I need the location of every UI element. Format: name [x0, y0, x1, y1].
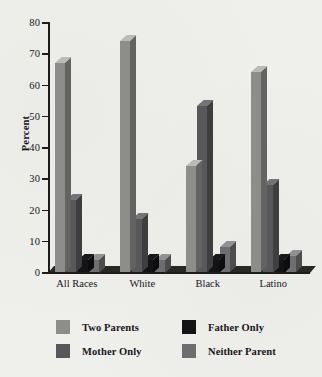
y-tick-mark [42, 116, 48, 118]
bar-front-face [55, 63, 65, 272]
bar-side-face [130, 35, 136, 272]
chart-legend: Two ParentsFather OnlyMother OnlyNeither… [56, 315, 306, 363]
bar-side-face [76, 195, 82, 272]
y-tick-label: 80 [29, 17, 40, 28]
y-tick-label: 30 [29, 173, 40, 184]
bar-front-face [186, 166, 196, 272]
y-tick-mark [42, 210, 48, 212]
y-tick-mark [42, 22, 48, 24]
category-label: Latino [233, 278, 314, 289]
legend-swatch [56, 320, 70, 334]
bar-side-face [196, 160, 202, 272]
y-tick-label: 0 [35, 267, 40, 278]
y-tick-mark [42, 178, 48, 180]
y-tick-mark [42, 147, 48, 149]
bar-group [186, 22, 231, 272]
plot-area: 01020304050607080 All RacesWhiteBlackLat… [48, 22, 310, 272]
bar [251, 72, 261, 272]
y-tick-label: 70 [29, 48, 40, 59]
legend-label: Neither Parent [208, 346, 306, 357]
bar-side-face [261, 67, 267, 272]
legend-label: Two Parents [82, 322, 174, 333]
bar-group [120, 22, 165, 272]
legend-label: Father Only [208, 322, 306, 333]
bar-front-face [120, 41, 130, 272]
bar-side-face [142, 213, 148, 272]
y-tick-mark [42, 85, 48, 87]
bar-group [251, 22, 296, 272]
legend-swatch [56, 344, 70, 358]
bar-front-face [251, 72, 261, 272]
bar-group [55, 22, 100, 272]
bar-side-face [273, 179, 279, 272]
legend-swatch [182, 320, 196, 334]
y-tick-label: 50 [29, 110, 40, 121]
y-tick-mark [42, 241, 48, 243]
y-tick-label: 60 [29, 79, 40, 90]
y-tick-label: 20 [29, 204, 40, 215]
bar [55, 63, 65, 272]
y-tick-label: 40 [29, 142, 40, 153]
bar [120, 41, 130, 272]
y-axis-line [48, 22, 50, 272]
bar-side-face [65, 57, 71, 272]
legend-label: Mother Only [82, 346, 174, 357]
y-tick-label: 10 [29, 235, 40, 246]
bar-chart: Percent 01020304050607080 All RacesWhite… [0, 0, 322, 377]
legend-swatch [182, 344, 196, 358]
y-tick-mark [42, 53, 48, 55]
y-tick-mark [42, 272, 48, 274]
bar-side-face [207, 101, 213, 272]
bar [186, 166, 196, 272]
